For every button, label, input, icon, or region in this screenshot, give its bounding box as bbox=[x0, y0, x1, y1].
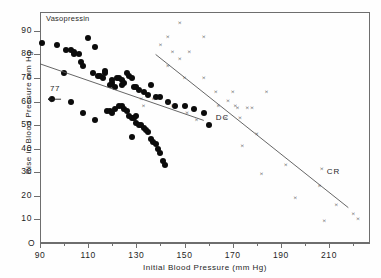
x-tick bbox=[281, 243, 282, 248]
origin-label: O bbox=[28, 238, 35, 248]
x-tick-label: 90 bbox=[25, 250, 55, 260]
data-point-cross: × bbox=[333, 202, 340, 209]
data-point-cross: × bbox=[176, 56, 183, 63]
x-tick-minor bbox=[353, 243, 354, 246]
data-point-cross: × bbox=[318, 166, 325, 173]
data-point-cross: × bbox=[169, 103, 176, 110]
data-point-cross: × bbox=[183, 110, 190, 117]
data-point-cross: × bbox=[354, 216, 361, 223]
fit-line-label-dc: DC bbox=[216, 113, 230, 122]
x-tick-minor bbox=[305, 243, 306, 246]
y-tick bbox=[34, 78, 40, 79]
data-point-cross: × bbox=[200, 75, 207, 82]
top-caption bbox=[150, 0, 300, 6]
data-point-cross: × bbox=[321, 218, 328, 225]
data-point-dot bbox=[206, 122, 212, 128]
data-point-cross: × bbox=[212, 89, 219, 96]
data-point-dot bbox=[191, 106, 197, 112]
x-tick-minor bbox=[64, 243, 65, 246]
x-tick-label: 190 bbox=[266, 250, 296, 260]
data-point-cross: × bbox=[236, 115, 243, 122]
data-point-cross: × bbox=[224, 98, 231, 105]
data-point-cross: × bbox=[181, 75, 188, 82]
data-point-dot bbox=[129, 75, 135, 81]
data-point-cross: × bbox=[186, 49, 193, 56]
data-point-dot bbox=[148, 82, 154, 88]
x-tick-minor bbox=[257, 243, 258, 246]
x-tick-label: 210 bbox=[314, 250, 344, 260]
y-tick bbox=[34, 31, 40, 32]
x-axis-title: Initial Blood Pressure (mm Hg) bbox=[40, 263, 370, 272]
x-tick-minor bbox=[112, 243, 113, 246]
x-tick-label: 110 bbox=[73, 250, 103, 260]
data-point-cross: × bbox=[157, 42, 164, 49]
y-tick bbox=[34, 54, 40, 55]
data-point-cross: × bbox=[176, 20, 183, 27]
data-point-cross: × bbox=[234, 105, 241, 112]
data-point-cross: × bbox=[193, 117, 200, 124]
fit-line-label-cr: CR bbox=[327, 167, 341, 176]
data-point-cross: × bbox=[140, 103, 147, 110]
data-point-cross: × bbox=[169, 49, 176, 56]
data-point-dot bbox=[121, 80, 127, 86]
x-tick-label: 170 bbox=[218, 250, 248, 260]
data-point-dot bbox=[76, 51, 82, 57]
data-point-cross: × bbox=[215, 103, 222, 110]
x-tick bbox=[40, 243, 41, 248]
data-point-cross: × bbox=[263, 89, 270, 96]
plot-frame bbox=[40, 12, 370, 243]
data-point-cross: × bbox=[248, 105, 255, 112]
data-point-cross: × bbox=[258, 171, 265, 178]
data-point-cross: × bbox=[282, 162, 289, 169]
x-tick bbox=[88, 243, 89, 248]
y-tick bbox=[34, 196, 40, 197]
series-label: Vasopressin bbox=[46, 14, 89, 23]
x-tick bbox=[329, 243, 330, 248]
data-point-cross: × bbox=[150, 96, 157, 103]
x-axis-line bbox=[40, 243, 370, 244]
data-point-cross: × bbox=[292, 195, 299, 202]
data-point-cross: × bbox=[316, 183, 323, 190]
y-tick bbox=[34, 172, 40, 173]
data-point-cross: × bbox=[164, 34, 171, 41]
figure-root: Vasopressin 102030405060708090 901101301… bbox=[0, 0, 381, 278]
x-tick bbox=[185, 243, 186, 248]
data-point-cross: × bbox=[253, 131, 260, 138]
data-point-dot bbox=[54, 42, 60, 48]
x-tick bbox=[136, 243, 137, 248]
x-tick-label: 150 bbox=[170, 250, 200, 260]
data-point-dot bbox=[68, 99, 74, 105]
y-tick bbox=[34, 125, 40, 126]
y-axis-title: Rise in Blood Pressure mm Hg bbox=[24, 13, 33, 213]
data-point-cross: × bbox=[239, 143, 246, 150]
x-tick bbox=[233, 243, 234, 248]
x-tick-minor bbox=[209, 243, 210, 246]
y-tick-label: 10 bbox=[8, 213, 32, 223]
y-tick bbox=[34, 219, 40, 220]
x-tick-label: 130 bbox=[121, 250, 151, 260]
y-tick bbox=[34, 102, 40, 103]
data-point-cross: × bbox=[200, 34, 207, 41]
annotation-77-label: 77 bbox=[50, 84, 60, 93]
data-point-cross: × bbox=[164, 63, 171, 70]
y-tick bbox=[34, 149, 40, 150]
data-point-cross: × bbox=[229, 89, 236, 96]
x-tick-minor bbox=[160, 243, 161, 246]
data-point-dot bbox=[129, 134, 135, 140]
